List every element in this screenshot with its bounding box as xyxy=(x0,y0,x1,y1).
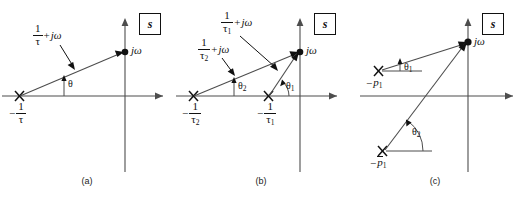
pole-marker-c-p1 xyxy=(374,66,383,76)
leader-line-b-1 xyxy=(240,36,275,67)
pole-label-c-p1: −p1 xyxy=(366,76,382,89)
p-bar-symbol-c-2: p xyxy=(377,156,383,168)
pole-marker-c-p1-conj xyxy=(378,146,387,156)
panel-c: θ1 θ2 jω −p1 −p1 s (c) xyxy=(348,0,522,199)
fraction-denominator: τ1 xyxy=(264,114,276,126)
pole-label-c-p1-conj: −p1 xyxy=(370,156,386,169)
pole-vector-c-2 xyxy=(385,49,461,150)
jomega-label-b-1: jω xyxy=(241,17,252,28)
jomega-point-label-a: jω xyxy=(131,45,142,56)
jomega-point-label-c: jω xyxy=(474,36,485,47)
jomega-point-c xyxy=(464,38,471,45)
minus-sign-b-2: − xyxy=(182,107,189,119)
fraction-denominator: τ xyxy=(16,114,26,126)
angle-label-b-2: θ2 xyxy=(238,80,247,91)
leader-line-a xyxy=(60,45,73,66)
s-plane-box-b: s xyxy=(314,13,336,35)
angle-label-c-1: θ1 xyxy=(404,61,413,72)
angle-tick-arrow-c-1 xyxy=(398,58,403,64)
leader-arrow-a xyxy=(68,62,75,70)
jomega-point-label-b: jω xyxy=(306,45,317,56)
caption-a: (a) xyxy=(0,176,174,186)
panel-a: 1 τ +jω θ jω − 1 τ s (a) xyxy=(0,0,174,199)
minus-sign-a: − xyxy=(9,107,16,119)
fraction-a-pole: 1 τ xyxy=(16,101,26,125)
real-axis-arrow-c xyxy=(505,93,513,100)
jomega-point-b xyxy=(297,49,304,56)
fraction-b-pole1: 1 τ1 xyxy=(264,101,276,125)
imag-axis-arrow-a xyxy=(122,18,129,26)
minus-sign-b-1: − xyxy=(257,107,264,119)
jomega-point-a xyxy=(122,49,129,56)
fraction-denominator: τ1 xyxy=(221,23,233,35)
imag-axis-arrow-c xyxy=(465,18,472,26)
caption-b: (b) xyxy=(174,176,348,186)
fraction-one-over-tau1: 1 τ1 xyxy=(221,10,233,34)
s-plane-box-a: s xyxy=(139,13,161,35)
pole-vector-c-1 xyxy=(382,45,461,70)
vector-label-b-tau2: 1 τ2 +jω xyxy=(198,37,229,61)
jomega-label-b-2: jω xyxy=(218,44,229,55)
fraction-denominator: τ xyxy=(33,36,43,48)
leader-arrow-b-2 xyxy=(228,68,235,76)
pole-label-a-1: − 1 τ xyxy=(9,101,26,125)
s-plane-box-c: s xyxy=(482,13,504,35)
vector-label-b-tau1: 1 τ1 +jω xyxy=(221,10,252,34)
imag-axis-arrow-b xyxy=(297,18,304,26)
vector-label-a: 1 τ +jω xyxy=(33,23,62,47)
fraction-one-over-tau2: 1 τ2 xyxy=(198,37,210,61)
pole-label-b-tau1: − 1 τ1 xyxy=(257,101,276,125)
fraction-one-over-tau-a: 1 τ xyxy=(33,23,43,47)
panel-b: 1 τ1 +jω 1 τ2 +jω θ2 θ1 jω − 1 τ2 xyxy=(174,0,348,199)
fraction-denominator: τ2 xyxy=(198,50,210,62)
caption-c: (c) xyxy=(348,176,522,186)
angle-arc-arrow-b-1 xyxy=(280,80,286,87)
p-symbol-c-1: p xyxy=(373,76,379,88)
real-axis-arrow-a xyxy=(155,93,163,100)
fraction-b-pole2: 1 τ2 xyxy=(189,101,201,125)
fraction-numerator: 1 xyxy=(16,101,26,114)
fraction-denominator: τ2 xyxy=(189,114,201,126)
jomega-label-a: jω xyxy=(51,30,62,41)
angle-label-b-1: θ1 xyxy=(286,80,295,91)
pole-label-b-tau2: − 1 τ2 xyxy=(182,101,201,125)
angle-arc-arrow-c-2 xyxy=(406,120,412,127)
theta-symbol-a: θ xyxy=(68,78,73,89)
fraction-numerator: 1 xyxy=(33,23,43,36)
real-axis-arrow-b xyxy=(329,93,337,100)
pole-zero-figure: 1 τ +jω θ jω − 1 τ s (a) xyxy=(0,0,522,199)
angle-label-c-2: θ2 xyxy=(412,126,421,137)
plus-sign-a: + xyxy=(43,30,51,41)
angle-label-a: θ xyxy=(68,78,73,89)
